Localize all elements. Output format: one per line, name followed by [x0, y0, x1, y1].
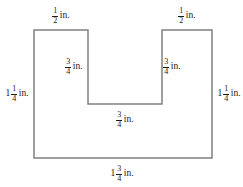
- inner-left-unit: in.: [71, 62, 82, 72]
- inner-right-unit: in.: [169, 62, 180, 72]
- dimension-label-notch-bottom: 3 4 in.: [108, 110, 142, 130]
- top-right-unit: in.: [184, 11, 195, 21]
- left-side-unit: in.: [17, 89, 28, 99]
- dimension-label-top-left: 1 2 in.: [38, 6, 84, 26]
- right-side-unit: in.: [229, 89, 240, 99]
- geometry-figure-canvas: 1 2 in. 1 2 in. 1 1 4 in. 1 1 4 in.: [0, 0, 243, 187]
- top-left-unit: in.: [58, 11, 69, 21]
- dimension-label-inner-right: 3 4 in.: [155, 57, 189, 77]
- notch-bottom-unit: in.: [122, 115, 133, 125]
- dimension-label-inner-left: 3 4 in.: [57, 57, 91, 77]
- bottom-unit: in.: [122, 169, 133, 179]
- u-shape-outline: [0, 0, 243, 187]
- u-shape-polygon: [34, 30, 212, 158]
- dimension-label-right-side: 1 1 4 in.: [213, 84, 243, 104]
- dimension-label-bottom: 1 3 4 in.: [99, 164, 145, 184]
- dimension-label-left-side: 1 1 4 in.: [1, 84, 33, 104]
- dimension-label-top-right: 1 2 in.: [164, 6, 210, 26]
